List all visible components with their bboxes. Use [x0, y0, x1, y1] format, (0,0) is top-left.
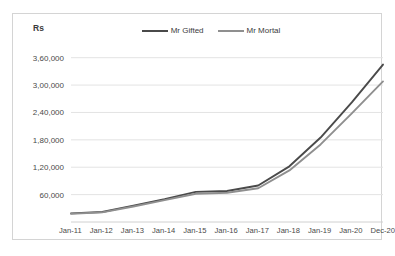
x-tick-label: Jan-11: [59, 226, 82, 235]
y-tick-label: 3,00,000: [33, 81, 64, 90]
x-tick-label: Jan-19: [308, 226, 331, 235]
series-line-1: [71, 81, 383, 213]
y-tick-label: 3,60,000: [33, 53, 64, 62]
x-tick-label: Jan-14: [152, 226, 175, 235]
x-axis-tick-labels: Jan-11Jan-12Jan-13Jan-14Jan-15Jan-16Jan-…: [59, 226, 395, 235]
y-tick-label: 60,000: [40, 190, 64, 199]
x-tick-label: Jan-15: [183, 226, 206, 235]
plot-svg: [71, 44, 383, 222]
legend-label-series-1: Mr Mortal: [247, 26, 281, 35]
gridlines: [71, 58, 383, 222]
y-tick-label: 2,40,000: [33, 108, 64, 117]
x-tick-label: Dec-20: [370, 226, 394, 235]
y-axis-title: Rs: [33, 23, 44, 33]
x-tick-label: Jan-18: [277, 226, 300, 235]
x-tick-label: Jan-20: [339, 226, 362, 235]
y-tick-label: 1,80,000: [33, 135, 64, 144]
series-line-0: [71, 65, 383, 214]
legend-label-series-0: Mr Gifted: [171, 26, 204, 35]
legend-swatch-series-1: [218, 30, 244, 32]
plot-area: [71, 44, 383, 222]
y-axis-tick-labels: 60,0001,20,0001,80,0002,40,0003,00,0003,…: [13, 38, 67, 222]
legend-item-series-0: Mr Gifted: [142, 26, 204, 35]
legend-item-series-1: Mr Mortal: [218, 26, 281, 35]
x-tick-label: Jan-16: [214, 226, 237, 235]
x-tick-label: Jan-17: [246, 226, 269, 235]
legend-swatch-series-0: [142, 30, 168, 32]
x-tick-label: Jan-13: [121, 226, 144, 235]
y-tick-label: 1,20,000: [33, 163, 64, 172]
chart-frame: Rs Mr Gifted Mr Mortal 60,0001,20,0001,8…: [12, 13, 382, 240]
x-tick-label: Jan-12: [90, 226, 113, 235]
series-lines: [71, 65, 383, 214]
chart-legend: Mr Gifted Mr Mortal: [121, 26, 301, 35]
